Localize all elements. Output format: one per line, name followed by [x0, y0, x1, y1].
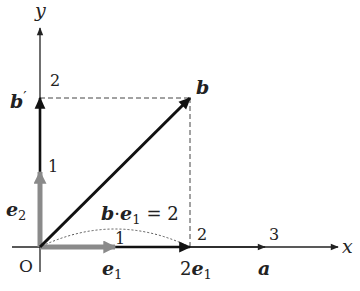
label-a: a	[258, 257, 270, 279]
label-b-prime: b′	[10, 88, 27, 112]
label-b: b	[196, 76, 209, 98]
vector-diagram: y x O 2 1 1 2 3 b b′ e2 e1 2e1 a b·e1= 2	[0, 0, 360, 291]
y-tick-2: 2	[50, 71, 60, 90]
label-2e1: 2e1	[180, 257, 212, 282]
y-axis-label: y	[34, 0, 46, 21]
y-tick-1: 1	[48, 157, 58, 176]
x-tick-3: 3	[269, 225, 279, 244]
label-e1: e1	[102, 257, 122, 282]
origin-label: O	[19, 256, 33, 276]
x-tick-1: 1	[115, 229, 125, 248]
x-tick-2: 2	[197, 225, 207, 244]
vector-b	[40, 98, 190, 247]
label-e2: e2	[6, 198, 26, 223]
dot-product-annotation: b·e1= 2	[101, 202, 179, 227]
x-axis-label: x	[342, 235, 353, 257]
